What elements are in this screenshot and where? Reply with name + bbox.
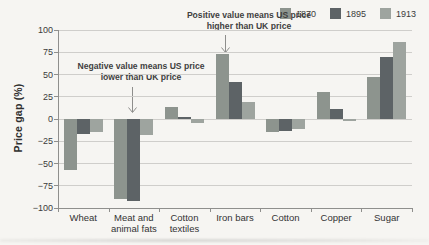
annotation-positive: Positive value means US price higher tha… [181,10,317,31]
annotation-negative: Negative value means US price lower than… [74,61,208,82]
y-axis-tick-label: 75 [27,47,53,57]
bar-1870-wheat [64,119,77,170]
gridline [58,74,412,75]
bar-1870-cotton-textiles [165,107,178,119]
x-axis-category-label: Sugar [361,212,412,223]
y-axis-tick-label: 50 [27,70,53,80]
gridline [58,30,412,31]
bar-1895-cotton [279,119,292,131]
x-axis-tick [210,208,211,212]
legend-item-1895: 1895 [330,8,366,19]
y-axis-tick-label: 25 [27,92,53,102]
bar-1870-meat-and-animal-fats [114,119,127,199]
bar-1870-copper [317,92,330,119]
bar-1870-sugar [367,77,380,119]
x-axis-tick [159,208,160,212]
y-axis-tick-label: −100 [27,203,53,213]
bar-1913-copper [343,119,356,121]
y-axis-line [58,30,59,209]
bar-1913-cotton [292,119,305,129]
x-axis-tick [109,208,110,212]
gridline [58,163,412,164]
x-axis-tick [260,208,261,212]
x-axis-tick [58,208,59,212]
scan-artifact [0,239,429,242]
legend-label: 1913 [396,9,416,19]
bar-1895-copper [330,109,343,119]
gridline [58,141,412,142]
x-axis-category-label: Copper [311,212,362,223]
bar-1913-wheat [90,119,103,132]
price-gap-chart: Price gap (%) 187018951913 Positive valu… [0,0,429,245]
y-axis-tick-label: 0 [27,114,53,124]
x-axis-category-label: Wheat [58,212,109,223]
bar-1913-meat-and-animal-fats [140,119,153,135]
x-axis-tick [361,208,362,212]
bar-1895-sugar [380,57,393,119]
bar-1870-cotton [266,119,279,132]
x-axis-tick [311,208,312,212]
x-axis-category-label: Cotton [260,212,311,223]
x-axis-category-label: Iron bars [210,212,261,223]
bar-1895-meat-and-animal-fats [127,119,140,201]
legend-label: 1895 [346,9,366,19]
gridline [58,52,412,53]
y-axis-tick-label: −25 [27,136,53,146]
x-axis-tick [412,208,413,212]
bar-1895-cotton-textiles [178,117,191,119]
bar-1913-cotton-textiles [191,119,204,123]
y-axis-tick-label: 100 [27,25,53,35]
x-axis-line [58,208,412,209]
gridline [58,185,412,186]
bar-1895-wheat [77,119,90,134]
x-axis-category-label: Meat and animal fats [109,212,160,235]
legend-item-1913: 1913 [380,8,416,19]
y-axis-tick-label: −50 [27,159,53,169]
bar-1895-iron-bars [229,82,242,119]
y-axis-tick-label: −75 [27,181,53,191]
legend-swatch-icon [330,8,341,19]
bar-1913-sugar [393,42,406,119]
y-axis-title: Price gap (%) [12,63,24,173]
arrow-down-icon [126,87,139,115]
x-axis-category-label: Cotton textiles [159,212,210,235]
bar-1870-iron-bars [216,54,229,119]
bar-1913-iron-bars [242,102,255,119]
legend-swatch-icon [380,8,391,19]
